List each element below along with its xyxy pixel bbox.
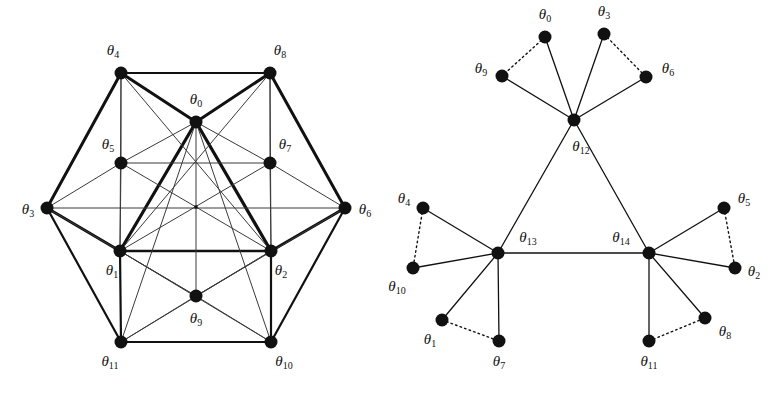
node-label-t9: θ9 bbox=[475, 60, 487, 78]
graph-node-t4[interactable] bbox=[417, 202, 430, 215]
graph-node-t13[interactable] bbox=[492, 247, 505, 260]
graph-edge bbox=[545, 37, 574, 120]
left-graph-panel: θ0θ1θ2θ3θ4θ5θ6θ7θ8θ9θ10θ11 bbox=[0, 0, 390, 397]
graph-node-t10[interactable] bbox=[407, 262, 420, 275]
node-label-t9: θ9 bbox=[190, 310, 202, 328]
graph-edge bbox=[649, 253, 735, 268]
graph-node-t0[interactable] bbox=[190, 116, 203, 129]
graph-node-t2[interactable] bbox=[265, 245, 278, 258]
node-label-t11: θ11 bbox=[640, 353, 657, 371]
graph-edge bbox=[604, 34, 646, 77]
right-graph-panel: θ0θ3θ9θ6θ12θ13θ14θ4θ10θ1θ7θ5θ2θ8θ11 bbox=[385, 0, 773, 397]
graph-node-t1[interactable] bbox=[436, 314, 449, 327]
graph-edge bbox=[649, 208, 724, 253]
graph-node-t7[interactable] bbox=[493, 335, 506, 348]
node-label-t10: θ10 bbox=[388, 278, 405, 296]
node-label-t3: θ3 bbox=[22, 201, 34, 219]
graph-edge bbox=[724, 208, 735, 268]
graph-node-t7[interactable] bbox=[264, 157, 277, 170]
node-label-t10: θ10 bbox=[275, 353, 292, 371]
graph-edge bbox=[574, 34, 604, 120]
graph-node-t0[interactable] bbox=[539, 31, 552, 44]
graph-edge bbox=[413, 208, 423, 268]
node-label-t0: θ0 bbox=[190, 91, 202, 109]
graph-edge bbox=[120, 251, 121, 342]
hexagonal-graph-svg: θ0θ1θ2θ3θ4θ5θ6θ7θ8θ9θ10θ11 bbox=[0, 0, 390, 397]
graph-edge bbox=[196, 296, 271, 342]
node-label-t8: θ8 bbox=[274, 42, 286, 60]
graph-edge bbox=[413, 253, 498, 268]
center-marker bbox=[194, 205, 197, 208]
graph-node-t8[interactable] bbox=[699, 312, 712, 325]
graph-node-t11[interactable] bbox=[643, 335, 656, 348]
node-label-t13: θ13 bbox=[519, 229, 536, 247]
node-label-t12: θ12 bbox=[572, 138, 589, 156]
graph-edge bbox=[120, 122, 196, 251]
graph-node-t10[interactable] bbox=[265, 336, 278, 349]
graph-node-t9[interactable] bbox=[190, 290, 203, 303]
graph-node-t9[interactable] bbox=[496, 70, 509, 83]
node-label-t5: θ5 bbox=[102, 136, 114, 154]
graph-node-t1[interactable] bbox=[114, 245, 127, 258]
node-label-t2: θ2 bbox=[275, 262, 287, 280]
tree-graph-svg: θ0θ3θ9θ6θ12θ13θ14θ4θ10θ1θ7θ5θ2θ8θ11 bbox=[385, 0, 773, 397]
graph-edge bbox=[47, 73, 121, 208]
figure-root: θ0θ1θ2θ3θ4θ5θ6θ7θ8θ9θ10θ11 θ0θ3θ9θ6θ12θ1… bbox=[0, 0, 773, 397]
node-label-t7: θ7 bbox=[279, 136, 291, 154]
graph-edge bbox=[649, 318, 705, 341]
graph-node-t14[interactable] bbox=[643, 247, 656, 260]
node-label-t1: θ1 bbox=[424, 331, 436, 349]
graph-node-t8[interactable] bbox=[264, 67, 277, 80]
graph-node-t5[interactable] bbox=[718, 202, 731, 215]
node-label-t8: θ8 bbox=[719, 323, 731, 341]
graph-edge bbox=[121, 296, 196, 342]
node-label-t3: θ3 bbox=[598, 3, 610, 21]
node-label-t6: θ6 bbox=[359, 201, 371, 219]
graph-edge bbox=[121, 73, 196, 122]
node-label-t14: θ14 bbox=[612, 229, 629, 247]
graph-node-t12[interactable] bbox=[568, 114, 581, 127]
graph-node-t11[interactable] bbox=[115, 336, 128, 349]
graph-node-t6[interactable] bbox=[339, 202, 352, 215]
graph-edge bbox=[442, 320, 499, 341]
node-label-t4: θ4 bbox=[107, 42, 119, 60]
node-label-t5: θ5 bbox=[738, 190, 750, 208]
graph-edge bbox=[498, 253, 499, 341]
node-label-t6: θ6 bbox=[662, 60, 674, 78]
node-label-t1: θ1 bbox=[106, 262, 118, 280]
graph-edge bbox=[574, 77, 646, 120]
graph-node-t4[interactable] bbox=[115, 67, 128, 80]
graph-node-t3[interactable] bbox=[41, 202, 54, 215]
node-label-t11: θ11 bbox=[101, 353, 118, 371]
graph-node-t6[interactable] bbox=[640, 71, 653, 84]
node-label-t2: θ2 bbox=[748, 263, 760, 281]
graph-edge bbox=[498, 120, 574, 253]
node-label-t7: θ7 bbox=[493, 353, 505, 371]
graph-node-t5[interactable] bbox=[115, 157, 128, 170]
graph-edge bbox=[502, 37, 545, 76]
node-label-t0: θ0 bbox=[539, 6, 551, 24]
node-label-t4: θ4 bbox=[398, 190, 410, 208]
graph-node-t2[interactable] bbox=[729, 262, 742, 275]
edge-layer bbox=[413, 34, 735, 341]
graph-node-t3[interactable] bbox=[598, 28, 611, 41]
graph-edge bbox=[196, 73, 270, 122]
graph-edge bbox=[423, 208, 498, 253]
graph-edge bbox=[649, 253, 705, 318]
graph-edge bbox=[442, 253, 498, 320]
node-layer: θ0θ3θ9θ6θ12θ13θ14θ4θ10θ1θ7θ5θ2θ8θ11 bbox=[388, 3, 760, 371]
graph-edge bbox=[502, 76, 574, 120]
